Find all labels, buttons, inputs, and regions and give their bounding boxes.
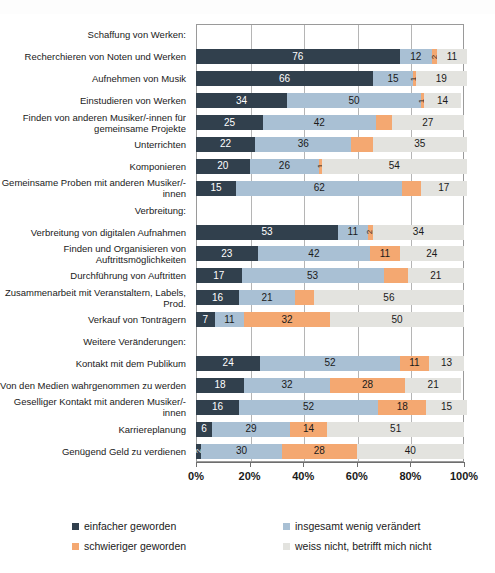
stacked-bar: 2026154 [196,159,467,174]
legend-label: insgesamt wenig verändert [295,520,420,532]
stacked-bar: 7612211 [196,49,467,64]
bar-segment: 28 [330,378,405,393]
bar-segment: 30 [201,444,281,459]
bar-value-label: 18 [397,402,408,412]
bar-value-label: 50 [349,96,360,106]
bar-value-label: 24 [426,249,437,259]
bar-row: 7113250 [196,312,464,327]
bar-row: 18322821 [196,378,464,393]
bar-value-label: 15 [387,74,398,84]
bar-row: 1562717 [196,181,464,196]
legend-swatch-icon [72,543,79,550]
bar-value-label: 62 [314,183,325,193]
category-label: Komponieren [0,155,190,177]
bar-segment: 21 [405,378,461,393]
bar-segment: 13 [429,356,464,371]
bar-value-label: 16 [212,293,223,303]
bar-segment: 34 [373,225,464,240]
group-heading-label: Weitere Veränderungen: [0,331,190,353]
chart-legend: einfacher gewordeninsgesamt wenig veränd… [0,518,495,562]
bar-row: 2302840 [196,444,464,459]
bar-value-label: 76 [292,52,303,62]
bar-value-label: 28 [314,446,325,456]
legend-item[interactable]: weiss nicht, betrifft mich nicht [283,540,431,552]
bar-value-label: 53 [261,227,272,237]
category-label: Finden und Organisieren von Auftrittsmög… [0,243,190,265]
bar-value-label: 14 [437,96,448,106]
bar-segment: 8 [351,137,372,152]
bar-segment: 9 [384,268,408,283]
bar-value-label: 66 [279,74,290,84]
scan-artifact-band [0,0,495,14]
bar-segment: 66 [196,71,373,86]
bar-value-label: 11 [224,315,234,325]
group-heading-label: Schaffung von Werken: [0,24,190,46]
bar-segment: 17 [196,268,242,283]
bar-row: 2026154 [196,159,464,174]
legend-item[interactable]: einfacher geworden [72,520,176,532]
stacked-bar: 24521113 [196,356,464,371]
bar-value-label: 19 [436,74,447,84]
category-label: Einstudieren von Werken [0,90,190,112]
bar-value-label: 15 [441,402,452,412]
legend-swatch-icon [283,543,290,550]
bar-value-label: 51 [390,424,401,434]
legend-swatch-icon [283,523,290,530]
bar-segment: 18 [378,400,426,415]
bar-value-label: 53 [307,271,318,281]
bar-segment: 54 [322,159,467,174]
bar-row: 6615119 [196,71,464,86]
legend-item[interactable]: schwieriger geworden [72,540,186,552]
stacked-bar: 1753921 [196,268,464,283]
bar-segment: 42 [258,246,371,261]
category-label: Durchführung von Auftritten [0,265,190,287]
bar-value-label: 34 [413,227,424,237]
bar-value-label: 56 [383,293,394,303]
x-axis-tick-label: 60% [346,470,368,483]
stacked-bar: 6615119 [196,71,467,86]
bar-value-label: 52 [303,402,314,412]
bar-segment: 42 [263,115,376,130]
bar-segment: 56 [314,290,464,305]
bar-value-label: 12 [410,52,421,62]
bar-value-label: 26 [279,161,290,171]
bar-row: 1621756 [196,290,464,305]
bar-value-label: 54 [389,161,400,171]
bar-value-label: 35 [414,139,425,149]
bar-segment: 11 [215,312,244,327]
category-label: Genügend Geld zu verdienen [0,440,190,462]
bar-segment: 50 [287,93,421,108]
stacked-bar: 16521815 [196,400,467,415]
group-heading-label: Verbreitung: [0,199,190,221]
bar-segment: 6 [196,422,212,437]
bar-value-label: 21 [430,271,441,281]
bar-value-label: 30 [236,446,247,456]
bar-segment: 16 [196,290,239,305]
category-label: Kontakt mit dem Publikum [0,353,190,375]
bar-segment: 51 [327,422,464,437]
category-label: Gemeinsame Proben mit anderen Musiker/-i… [0,177,190,199]
stacked-bar: 1621756 [196,290,464,305]
category-label: Verkauf von Tonträgern [0,309,190,331]
bar-segment: 11 [437,49,466,64]
bar-segment: 36 [255,137,351,152]
legend-item[interactable]: insgesamt wenig verändert [283,520,420,532]
bar-segment: 7 [402,181,421,196]
bar-value-label: 11 [380,249,390,259]
bar-value-label: 25 [224,118,235,128]
bar-segment: 11 [400,356,429,371]
bar-value-label: 23 [221,249,232,259]
bar-segment: 17 [421,181,467,196]
bar-value-label: 11 [409,358,419,368]
category-label: Geselliger Kontakt mit anderen Musiker/-… [0,396,190,418]
bar-segment: 52 [239,400,378,415]
bar-value-label: 7 [203,315,209,325]
legend-label: schwieriger geworden [84,540,186,552]
bar-value-label: 15 [211,183,222,193]
bar-value-label: 52 [324,358,335,368]
stacked-bar: 2542627 [196,115,464,130]
stacked-bar: 1562717 [196,181,467,196]
category-label: Von den Medien wahrgenommen zu werden [0,374,190,396]
bar-row: 23421124 [196,246,464,261]
bar-value-label: 21 [428,380,439,390]
